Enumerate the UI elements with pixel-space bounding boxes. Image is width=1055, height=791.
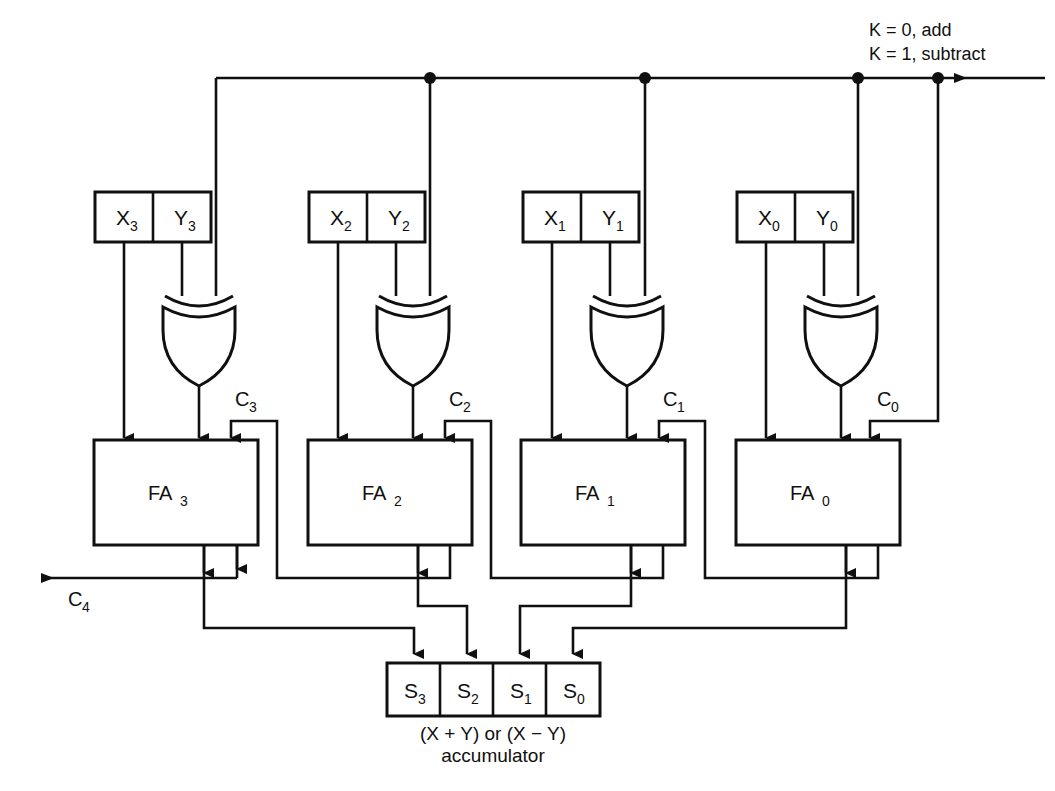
register-x-sub-bit1: 1 [558, 218, 566, 234]
full-adder-bit2[interactable]: FA 2 [308, 440, 472, 545]
full-adder-bit3[interactable]: FA 3 [94, 440, 258, 545]
full-adder-label-bit2: FA [362, 482, 387, 504]
junction-dot-c0 [932, 72, 944, 84]
y-operand-wires [182, 242, 824, 296]
register-y-label-bit3: Y [174, 206, 188, 229]
figure-canvas: K = 0, add K = 1, subtract X 3 Y 3 X 2 [0, 0, 1055, 791]
full-adder-box-bit1 [521, 440, 685, 545]
carry-sub-c4: 4 [82, 599, 90, 615]
register-y-label-bit2: Y [388, 206, 402, 229]
full-adder-bit1[interactable]: FA 1 [521, 440, 685, 545]
carry-sub-c0: 0 [891, 399, 899, 415]
carry-sub-c1: 1 [677, 399, 685, 415]
xor-gate-bit1-back-arc [593, 296, 661, 306]
accumulator-cell-label-s0: S [563, 679, 577, 702]
full-adder-sub-bit3: 3 [180, 493, 188, 509]
register-y-sub-bit2: 2 [402, 218, 410, 234]
carry-label-c1: C [663, 388, 677, 410]
xor-gate-bit1[interactable] [591, 296, 663, 438]
k-to-c0-wire [870, 78, 938, 438]
control-legend: K = 0, add K = 1, subtract [869, 20, 986, 64]
register-pair-bit3[interactable]: X 3 Y 3 [95, 192, 211, 242]
xor-gate-bit2-back-arc [379, 296, 447, 306]
accumulator-cell-label-s1: S [510, 679, 524, 702]
full-adder-sub-bit1: 1 [607, 493, 615, 509]
full-adder-bit0[interactable]: FA 0 [736, 440, 900, 545]
junction-dot-bit2 [424, 72, 436, 84]
junction-dot-bit1 [639, 72, 651, 84]
full-adder-label-bit3: FA [148, 482, 173, 504]
register-x-sub-bit2: 2 [344, 218, 352, 234]
full-adder-box-bit2 [308, 440, 472, 545]
accumulator-register[interactable]: S 3 S 2 S 1 S 0 [387, 663, 600, 716]
accumulator-caption: (X + Y) or (X − Y) accumulator [420, 723, 566, 766]
register-x-sub-bit3: 3 [130, 218, 138, 234]
xor-gate-bit3-body [163, 307, 235, 386]
register-y-sub-bit1: 1 [616, 218, 624, 234]
control-line-1: K = 0, add [869, 20, 952, 40]
xor-gate-bit1-body [591, 307, 663, 386]
register-y-sub-bit3: 3 [188, 218, 196, 234]
xor-gate-bit2[interactable] [377, 296, 449, 438]
carry-label-c2: C [449, 388, 463, 410]
full-adder-sub-bit2: 2 [394, 493, 402, 509]
sum-wire-s1 [520, 545, 631, 654]
xor-gate-bit3[interactable] [163, 296, 235, 438]
xor-gate-bit0-back-arc [807, 296, 875, 306]
sum-path-s2 [418, 545, 467, 654]
register-x-label-bit1: X [544, 206, 558, 229]
carry-label-c0: C [877, 388, 891, 410]
accumulator-cell-sub-s3: 3 [418, 691, 426, 707]
carry-output-c4: C 4 [42, 545, 237, 615]
sum-path-s1 [520, 545, 631, 654]
carry-input-c0: C 0 [877, 388, 899, 415]
accumulator-cell-sub-s1: 1 [524, 691, 532, 707]
carry-sub-c2: 2 [463, 399, 471, 415]
circuit-diagram: K = 0, add K = 1, subtract X 3 Y 3 X 2 [0, 0, 1055, 791]
full-adder-box-bit0 [736, 440, 900, 545]
accumulator-cell-label-s3: S [404, 679, 418, 702]
register-x-label-bit0: X [758, 206, 772, 229]
xor-gate-bit2-body [377, 307, 449, 386]
register-y-label-bit0: Y [816, 206, 830, 229]
full-adder-box-bit3 [94, 440, 258, 545]
accumulator-caption-line1: (X + Y) or (X − Y) [420, 723, 566, 744]
control-line-2: K = 1, subtract [869, 44, 986, 64]
sum-wire-s0 [573, 545, 846, 654]
xor-gate-bit0-body [805, 307, 877, 386]
sum-path-s0 [573, 545, 846, 654]
sum-wire-s2 [418, 545, 467, 654]
accumulator-caption-line2: accumulator [441, 745, 545, 766]
junction-dot-bit0 [852, 72, 864, 84]
register-x-label-bit3: X [116, 206, 130, 229]
register-pair-bit0[interactable]: X 0 Y 0 [737, 192, 853, 242]
accumulator-cell-sub-s0: 0 [577, 691, 585, 707]
xor-gate-bit0[interactable] [805, 296, 877, 438]
sum-wire-s3 [204, 545, 414, 654]
full-adder-label-bit0: FA [790, 482, 815, 504]
full-adder-label-bit1: FA [575, 482, 600, 504]
register-pair-bit1[interactable]: X 1 Y 1 [523, 192, 639, 242]
full-adder-sub-bit0: 0 [822, 493, 830, 509]
register-x-sub-bit0: 0 [772, 218, 780, 234]
carry-label-c4: C [68, 588, 82, 610]
sum-path-s3 [204, 545, 414, 654]
accumulator-cell-label-s2: S [457, 679, 471, 702]
register-y-sub-bit0: 0 [830, 218, 838, 234]
register-y-label-bit1: Y [602, 206, 616, 229]
register-pair-bit2[interactable]: X 2 Y 2 [309, 192, 425, 242]
accumulator-cell-sub-s2: 2 [471, 691, 479, 707]
register-x-label-bit2: X [330, 206, 344, 229]
carry-sub-c3: 3 [249, 399, 257, 415]
carry-label-c3: C [235, 388, 249, 410]
xor-gate-bit3-back-arc [165, 296, 233, 306]
